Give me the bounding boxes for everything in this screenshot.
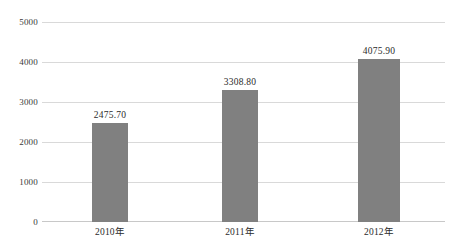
y-tick-label-4000: 4000	[2, 58, 38, 67]
bar-2012[interactable]	[358, 59, 400, 222]
y-tick-label-1000: 1000	[2, 178, 38, 187]
x-tick-label-2011: 2011年	[210, 228, 270, 238]
bar-value-2010: 2475.70	[80, 111, 140, 121]
bar-2010[interactable]	[92, 123, 128, 222]
x-tick-label-2010: 2010年	[80, 228, 140, 238]
bar-value-2011: 3308.80	[210, 78, 270, 88]
y-tick-label-2000: 2000	[2, 138, 38, 147]
plot-area: 2475.70 3308.80 4075.90	[42, 22, 445, 222]
y-tick-label-0: 0	[2, 218, 38, 227]
x-tick-label-2012: 2012年	[349, 228, 409, 238]
y-tick-label-3000: 3000	[2, 98, 38, 107]
y-axis: 0 1000 2000 3000 4000 5000	[0, 22, 38, 222]
gridline-5000	[42, 22, 445, 23]
x-axis: 2010年 2011年 2012年	[42, 228, 445, 248]
y-tick-label-5000: 5000	[2, 18, 38, 27]
bar-chart: 0 1000 2000 3000 4000 5000 2475.70 3308.…	[0, 0, 456, 252]
bar-value-2012: 4075.90	[349, 47, 409, 57]
bar-2011[interactable]	[222, 90, 258, 222]
